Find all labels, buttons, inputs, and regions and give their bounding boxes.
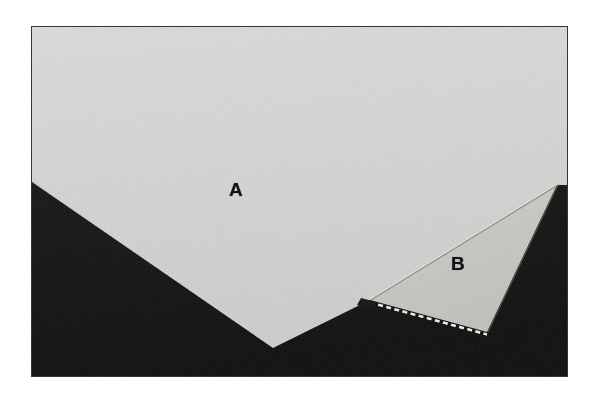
region-a-label: A — [229, 180, 243, 199]
photograph-plate — [31, 26, 568, 377]
photograph-vector — [31, 26, 568, 377]
figure-root: A B — [0, 0, 592, 394]
region-b-label: B — [451, 254, 465, 273]
